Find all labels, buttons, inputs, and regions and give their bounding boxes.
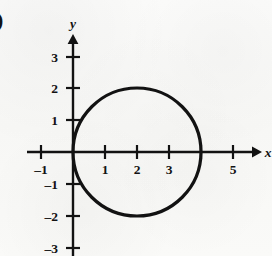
figure-part-letter: )	[0, 7, 3, 32]
y-tick-label-2: 2	[51, 81, 58, 96]
y-tick-label-neg2: –2	[44, 209, 59, 224]
y-tick-label-neg3: –3	[44, 241, 59, 256]
x-tick-label-1: 1	[102, 162, 109, 177]
coordinate-plane-figure: )	[0, 0, 272, 256]
y-axis-arrowhead	[68, 34, 79, 44]
y-tick-label-3: 3	[51, 50, 58, 65]
y-tick-label-neg1: –1	[44, 177, 59, 192]
x-tick-label-5: 5	[230, 162, 237, 177]
x-axis-label: x	[264, 145, 272, 160]
x-tick-label-neg1: –1	[33, 162, 48, 177]
figure-page: )	[0, 0, 272, 256]
y-tick-label-1: 1	[51, 113, 58, 128]
x-axis-arrowhead	[252, 147, 262, 158]
y-axis-label: y	[68, 16, 77, 31]
axes-group	[27, 34, 262, 256]
x-tick-label-3: 3	[166, 162, 173, 177]
x-tick-labels: –1 1 2 3 5	[33, 162, 236, 177]
x-tick-label-2: 2	[134, 162, 141, 177]
